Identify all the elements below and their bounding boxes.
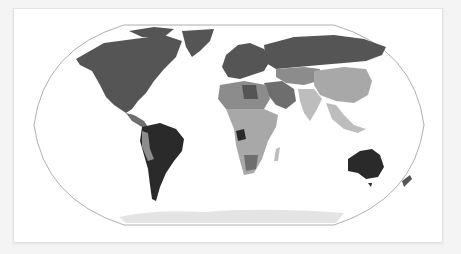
- region-libya: [242, 85, 258, 99]
- map-card: [13, 8, 443, 243]
- world-choropleth-map: [14, 9, 442, 242]
- region-southern-africa: [244, 155, 258, 171]
